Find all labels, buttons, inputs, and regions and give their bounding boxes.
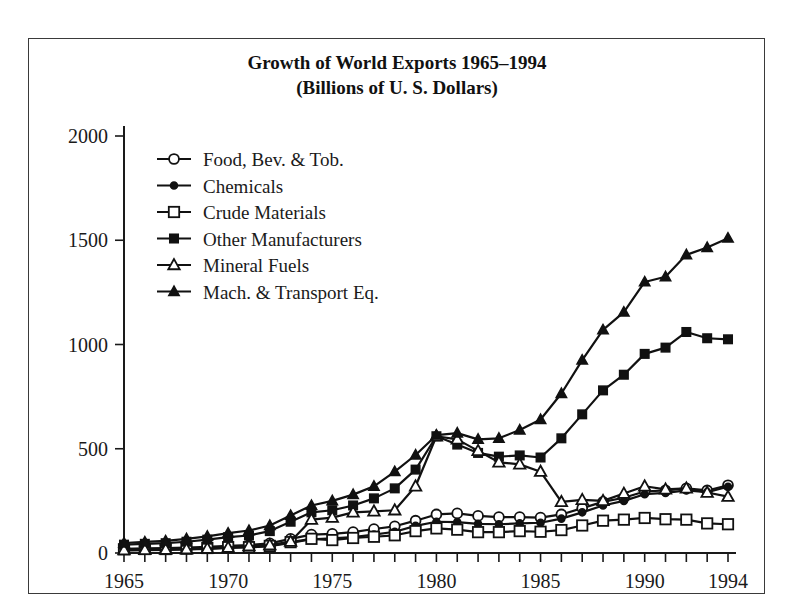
chart-subtitle: (Billions of U. S. Dollars): [296, 77, 498, 99]
series-marker-open-circle: [169, 154, 179, 164]
x-tick-label: 1985: [521, 570, 561, 592]
x-tick-label: 1990: [625, 570, 665, 592]
series-marker-open-triangle: [410, 480, 421, 490]
y-tick-label: 500: [78, 438, 108, 460]
series-marker-filled-square: [170, 234, 179, 243]
series-marker-open-square: [494, 527, 504, 537]
chart-legend: Food, Bev. & Tob.ChemicalsCrude Material…: [157, 149, 379, 303]
x-tick-label: 1975: [312, 570, 352, 592]
series-marker-open-square: [619, 514, 629, 524]
series-marker-open-square: [535, 527, 545, 537]
series-marker-open-square: [431, 523, 441, 533]
legend-label: Food, Bev. & Tob.: [203, 149, 344, 170]
series-marker-open-square: [702, 518, 712, 528]
y-axis-tick-labels: 0500100015002000: [68, 125, 108, 564]
series-marker-filled-square: [370, 494, 379, 503]
series-marker-filled-circle: [641, 491, 648, 498]
legend-label: Other Manufacturers: [203, 229, 362, 250]
series-marker-filled-square: [620, 370, 629, 379]
series-marker-filled-square: [536, 453, 545, 462]
series-marker-open-square: [452, 524, 462, 534]
series-marker-open-square: [681, 514, 691, 524]
series-marker-open-square: [327, 535, 337, 545]
series-marker-open-square: [348, 533, 358, 543]
legend-item-4[interactable]: Mineral Fuels: [157, 255, 309, 276]
series-marker-filled-square: [661, 343, 670, 352]
series-marker-filled-triangle: [723, 233, 733, 242]
x-tick-label: 1980: [416, 570, 456, 592]
exports-line-chart: Growth of World Exports 1965–1994 (Billi…: [29, 39, 766, 592]
series-marker-open-square: [639, 513, 649, 523]
series-marker-filled-triangle: [452, 428, 462, 437]
series-marker-open-triangle: [639, 480, 650, 490]
x-tick-label: 1965: [104, 570, 144, 592]
series-marker-filled-square: [390, 484, 399, 493]
series-marker-filled-square: [682, 328, 691, 337]
series-marker-filled-square: [724, 335, 733, 344]
legend-label: Mineral Fuels: [203, 255, 309, 276]
legend-item-0[interactable]: Food, Bev. & Tob.: [157, 149, 344, 170]
legend-item-5[interactable]: Mach. & Transport Eq.: [157, 282, 379, 303]
legend-label: Crude Materials: [203, 202, 326, 223]
x-axis-tick-labels: 1965197019751980198519901994: [104, 570, 748, 592]
legend-item-2[interactable]: Crude Materials: [157, 202, 326, 223]
series-marker-open-square: [473, 527, 483, 537]
series-marker-filled-circle: [579, 509, 586, 516]
legend-item-1[interactable]: Chemicals: [157, 176, 283, 197]
legend-label: Mach. & Transport Eq.: [203, 282, 379, 303]
series-marker-filled-square: [703, 334, 712, 343]
series-marker-open-circle: [452, 508, 462, 518]
series-marker-filled-square: [557, 434, 566, 443]
y-tick-label: 2000: [68, 125, 108, 147]
series-marker-filled-circle: [170, 182, 177, 189]
series-marker-filled-square: [411, 465, 420, 474]
series-marker-filled-square: [599, 386, 608, 395]
series-marker-open-square: [660, 514, 670, 524]
series-marker-open-square: [556, 525, 566, 535]
chart-title: Growth of World Exports 1965–1994: [247, 52, 547, 73]
series-marker-open-square: [598, 515, 608, 525]
series-marker-open-circle: [473, 511, 483, 521]
series-marker-filled-square: [578, 410, 587, 419]
y-tick-label: 1500: [68, 229, 108, 251]
series-marker-filled-circle: [537, 519, 544, 526]
series-5: [119, 233, 733, 547]
series-marker-open-square: [410, 526, 420, 536]
y-tick-label: 1000: [68, 334, 108, 356]
x-tick-label: 1994: [708, 570, 748, 592]
y-tick-label: 0: [98, 542, 108, 564]
series-marker-open-square: [515, 526, 525, 536]
series-marker-open-square: [369, 532, 379, 542]
series-marker-filled-square: [640, 350, 649, 359]
series-marker-open-square: [169, 207, 179, 217]
chart-title-group: Growth of World Exports 1965–1994 (Billi…: [247, 52, 547, 99]
series-marker-filled-triangle: [369, 481, 379, 490]
figure-frame: Growth of World Exports 1965–1994 (Billi…: [28, 38, 765, 594]
series-marker-open-square: [723, 519, 733, 529]
x-tick-label: 1970: [208, 570, 248, 592]
series-marker-open-square: [577, 520, 587, 530]
series-marker-open-square: [306, 534, 316, 544]
legend-label: Chemicals: [203, 176, 283, 197]
series-marker-open-square: [390, 530, 400, 540]
legend-item-3[interactable]: Other Manufacturers: [157, 229, 362, 250]
series-marker-filled-circle: [558, 515, 565, 522]
